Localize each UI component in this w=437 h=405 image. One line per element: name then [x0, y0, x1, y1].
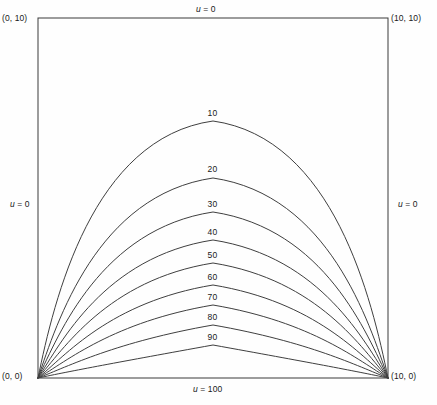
contour-label-60: 60	[206, 273, 219, 282]
contour-curve-90	[38, 345, 388, 378]
boundary-label-bottom: u = 100	[193, 385, 222, 394]
figure-root: (0, 10) (10, 10) (0, 0) (10, 0) u = 0 u …	[0, 0, 437, 405]
contour-label-20: 20	[206, 165, 219, 174]
boundary-bottom-value: = 100	[198, 384, 222, 394]
boundary-right-value: = 0	[403, 199, 418, 209]
corner-label-bottom-left: (0, 0)	[2, 372, 22, 381]
contour-label-30: 30	[206, 200, 219, 209]
plot-frame	[38, 18, 388, 378]
boundary-top-value: = 0	[201, 4, 216, 14]
boundary-left-value: = 0	[15, 199, 30, 209]
contour-label-40: 40	[206, 228, 219, 237]
corner-label-top-right: (10, 10)	[391, 14, 421, 23]
corner-label-bottom-right: (10, 0)	[391, 372, 416, 381]
contour-label-90: 90	[206, 333, 219, 342]
contour-label-10: 10	[206, 109, 219, 118]
corner-label-top-left: (0, 10)	[2, 14, 27, 23]
contour-label-70: 70	[206, 293, 219, 302]
boundary-label-right: u = 0	[398, 200, 418, 209]
boundary-label-top: u = 0	[196, 5, 216, 14]
contour-label-50: 50	[206, 251, 219, 260]
boundary-label-left: u = 0	[10, 200, 30, 209]
contour-label-80: 80	[206, 313, 219, 322]
